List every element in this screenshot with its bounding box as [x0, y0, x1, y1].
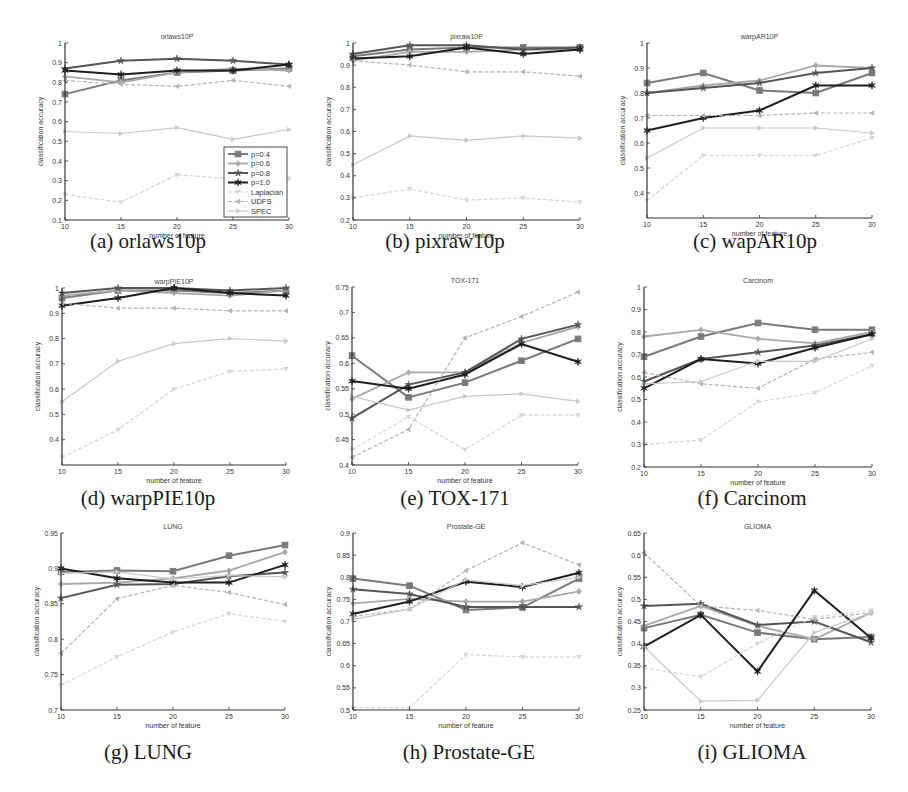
legend-entry-label: Laplacian [251, 188, 283, 197]
y-tick-label: 0.7 [52, 99, 62, 106]
y-axis-label: classification accuracy [37, 96, 45, 166]
data-point-marker [755, 400, 761, 405]
data-point-marker [408, 606, 413, 612]
y-tick-label: 0.4 [49, 436, 59, 443]
data-point-marker [520, 391, 525, 397]
data-point-marker [812, 69, 819, 76]
x-tick-label: 30 [575, 713, 583, 720]
y-tick-label: 0.9 [52, 59, 62, 66]
data-point-marker [869, 349, 874, 355]
data-point-marker [462, 335, 467, 341]
series-laplacian [644, 136, 875, 203]
series-laplacian [350, 653, 582, 711]
y-tick-label: 0.9 [631, 306, 641, 313]
y-tick-label: 0.8 [634, 90, 644, 97]
data-point-marker [231, 137, 236, 143]
data-point-marker [576, 562, 581, 568]
data-point-marker [869, 364, 875, 369]
subfigure-caption: (e) TOX-171 [400, 486, 509, 511]
data-point-marker [282, 549, 288, 556]
y-tick-label: 0.8 [49, 335, 59, 342]
chart-panel-a: orlaws10P0.10.20.30.40.50.60.70.80.91101… [65, 43, 289, 220]
data-point-marker [406, 369, 412, 376]
y-tick-label: 0.9 [340, 62, 350, 69]
y-axis-label: classification accuracy [616, 342, 624, 412]
y-tick-label: 0.6 [340, 128, 350, 135]
x-tick-label: 10 [57, 713, 65, 720]
x-tick-label: 30 [868, 470, 876, 477]
data-point-marker [758, 125, 763, 131]
data-point-marker [282, 602, 287, 608]
y-tick-label: 0.5 [631, 596, 641, 603]
data-point-marker [235, 151, 241, 157]
chart-title: orlaws10P [161, 33, 194, 40]
y-tick-label: 0.9 [340, 530, 350, 537]
data-point-marker [813, 110, 818, 116]
y-tick-label: 0.65 [627, 530, 641, 537]
series-line [647, 138, 872, 201]
y-axis-label: classification accuracy [619, 95, 627, 165]
data-point-marker [700, 70, 706, 76]
y-tick-label: 0.5 [52, 138, 62, 145]
x-tick-label: 10 [640, 713, 648, 720]
y-tick-label: 0.85 [336, 552, 350, 559]
data-point-marker [173, 55, 180, 62]
y-tick-label: 0.8 [631, 329, 641, 336]
x-axis-label: number of feature [145, 722, 200, 729]
legend-entry-label: p=0.6 [251, 159, 270, 168]
x-axis-label: number of feature [437, 477, 492, 484]
x-tick-label: 25 [810, 713, 818, 720]
chart-title: TOX-171 [451, 277, 479, 284]
x-tick-label: 25 [518, 468, 526, 475]
data-point-marker [520, 540, 525, 546]
series-spec [350, 391, 581, 413]
data-point-marker [519, 358, 525, 364]
data-point-marker [813, 62, 819, 69]
y-tick-label: 1 [55, 285, 59, 292]
series-line [61, 585, 285, 653]
data-point-marker [576, 655, 582, 660]
data-point-marker [755, 642, 761, 647]
chart-panel-f: Carcinom0.20.30.40.50.60.70.80.911015202… [644, 287, 872, 467]
x-tick-label: 10 [349, 713, 357, 720]
y-tick-label: 0.4 [631, 419, 641, 426]
x-tick-label: 20 [461, 468, 469, 475]
data-point-marker [698, 334, 704, 340]
y-tick-label: 0.75 [335, 284, 349, 291]
data-point-marker [576, 399, 581, 405]
series-udfs [350, 58, 582, 79]
x-tick-label: 30 [576, 223, 584, 230]
data-point-marker [284, 338, 289, 344]
series-line [352, 415, 578, 450]
y-tick-label: 0.4 [634, 190, 644, 197]
y-tick-label: 0.6 [631, 552, 641, 559]
x-tick-label: 10 [61, 223, 69, 230]
data-point-marker [407, 407, 412, 413]
y-axis-label: classification accuracy [616, 586, 624, 656]
series-line [61, 545, 285, 572]
chart-panel-d: warpPIE10P0.40.50.60.70.80.911015202530n… [62, 288, 286, 465]
x-axis-label: number of feature [438, 722, 493, 729]
x-tick-label: 15 [406, 713, 414, 720]
legend-entry-label: SPEC [251, 207, 272, 216]
y-tick-label: 0.8 [48, 636, 58, 643]
data-point-marker [406, 395, 412, 401]
data-point-marker [227, 308, 232, 314]
y-tick-label: 0.3 [340, 194, 350, 201]
data-point-marker [283, 367, 289, 372]
y-tick-label: 0.6 [634, 140, 644, 147]
series-spec [351, 133, 583, 167]
data-point-marker [115, 305, 120, 311]
data-point-marker [407, 583, 413, 589]
y-tick-label: 0.55 [336, 684, 350, 691]
data-point-marker [463, 394, 468, 400]
data-point-marker [813, 90, 819, 96]
chart-panel-b: pixraw10P0.20.30.40.50.60.70.80.91101520… [353, 43, 580, 220]
y-tick-label: 0.8 [340, 84, 350, 91]
data-point-marker [282, 620, 288, 625]
data-point-marker [226, 553, 232, 559]
x-tick-label: 10 [58, 468, 66, 475]
y-tick-label: 1 [640, 40, 644, 47]
data-point-marker [286, 83, 291, 89]
y-tick-label: 0.45 [335, 436, 349, 443]
